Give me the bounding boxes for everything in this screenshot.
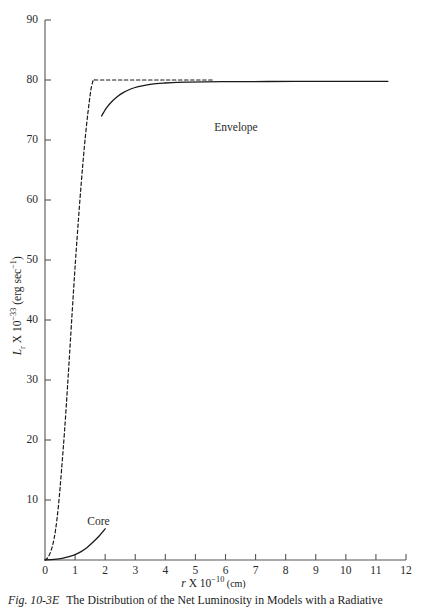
- x-axis-tick-label: 8: [283, 565, 289, 577]
- x-axis-tick-label: 2: [102, 565, 108, 577]
- x-axis-tick-label: 10: [340, 565, 352, 577]
- y-axis-ticks: [45, 20, 51, 500]
- y-axis-title-unit-exponent: −1: [9, 260, 18, 269]
- figure-container: 0123456789101112 102030405060708090 Enve…: [0, 0, 427, 615]
- x-axis-tick-label: 9: [313, 565, 319, 577]
- y-axis-title-exponent: −33: [9, 308, 18, 321]
- y-axis-title: Lr X 10−33 (erg sec−1): [12, 226, 24, 386]
- x-axis-title: r X 10−10 (cm): [0, 578, 427, 590]
- figure-caption: Fig. 10-3EThe Distribution of the Net Lu…: [8, 594, 423, 608]
- y-axis-title-variable: L: [11, 349, 23, 355]
- series-label-core: Core: [87, 516, 109, 528]
- y-axis-tick-label: 20: [5, 434, 38, 446]
- figure-number: Fig. 10-3E: [8, 593, 59, 607]
- x-axis-tick-label: 7: [253, 565, 259, 577]
- x-axis-tick-label: 1: [72, 565, 78, 577]
- series-curve-envelope: [102, 81, 388, 116]
- figure-caption-text: The Distribution of the Net Luminosity i…: [66, 593, 383, 607]
- y-axis-tick-label: 70: [5, 134, 38, 146]
- x-axis-tick-label: 0: [42, 565, 48, 577]
- series-curve-model-dashed: [45, 80, 213, 560]
- x-axis-tick-label: 5: [193, 565, 199, 577]
- y-axis-tick-label: 80: [5, 74, 38, 86]
- y-axis-title-multiplier: X 10: [11, 321, 23, 347]
- x-axis-tick-label: 4: [162, 565, 168, 577]
- x-axis-tick-label: 12: [400, 565, 412, 577]
- y-axis-title-unit-open: (erg sec: [11, 269, 23, 308]
- x-axis-title-exponent: −10: [211, 575, 224, 584]
- x-axis-tick-label: 3: [132, 565, 138, 577]
- chart-series-layer: [45, 80, 388, 560]
- series-label-envelope: Envelope: [214, 122, 257, 134]
- y-axis-title-subscript: r: [18, 346, 27, 349]
- chart-plot-area: [0, 0, 427, 615]
- x-axis-title-unit: (cm): [224, 578, 245, 589]
- y-axis-title-unit-close: ): [11, 256, 23, 260]
- y-axis-tick-label: 60: [5, 194, 38, 206]
- y-axis-tick-label: 10: [5, 494, 38, 506]
- x-axis-ticks: [75, 554, 406, 560]
- x-axis-tick-label: 11: [370, 565, 381, 577]
- y-axis-tick-label: 90: [5, 14, 38, 26]
- x-axis-title-multiplier: X 10: [186, 577, 212, 589]
